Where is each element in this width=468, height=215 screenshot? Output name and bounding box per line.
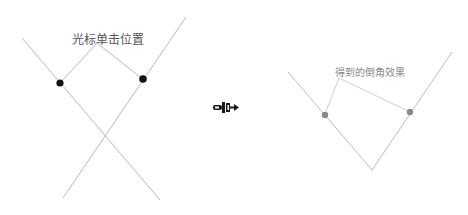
click-position-label: 光标单击位置 <box>72 30 144 47</box>
diagram-drawing <box>0 0 468 215</box>
right-line-a <box>288 72 372 170</box>
fillet-result-label: 得到的倒角效果 <box>335 64 405 79</box>
right-arrow-icon <box>213 102 239 113</box>
right-callout-leader <box>325 78 410 114</box>
fillet-diagram: 光标单击位置 得到的倒角效果 <box>0 0 468 215</box>
click-point-2 <box>139 75 147 83</box>
result-point-2 <box>407 109 413 115</box>
click-point-1 <box>56 79 63 86</box>
left-line-a <box>22 38 160 200</box>
left-callout-leader <box>61 43 144 82</box>
result-point-1 <box>322 112 328 118</box>
